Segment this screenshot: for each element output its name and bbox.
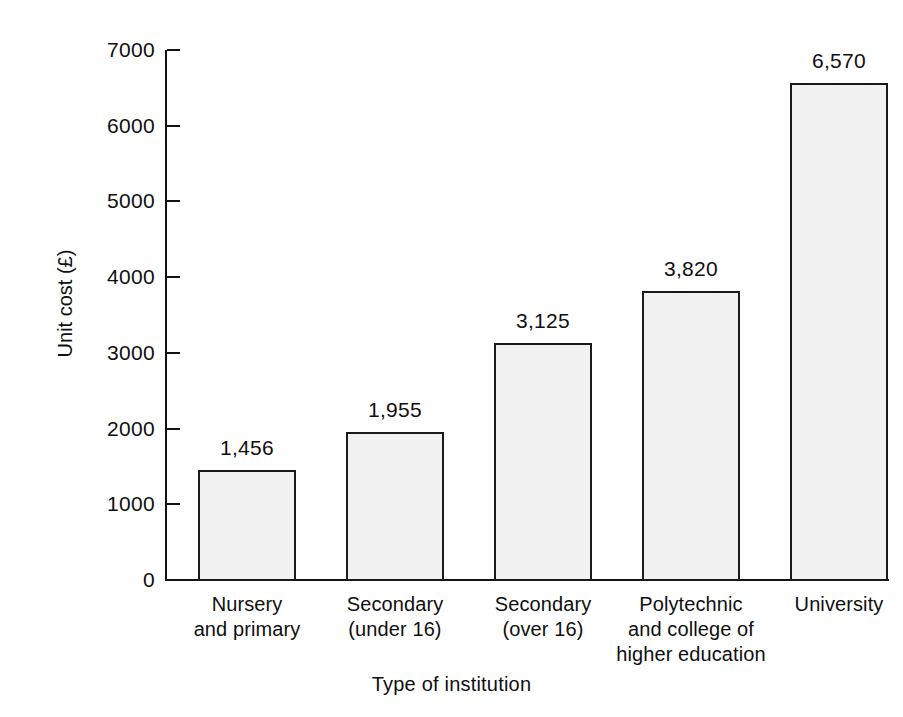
- y-axis-tick-mark: [167, 125, 180, 127]
- y-axis-tick-mark: [167, 200, 180, 202]
- y-axis-title-text: Unit cost (£): [54, 184, 77, 424]
- y-axis-tick-label-text: 1000: [65, 493, 155, 514]
- y-axis-line: [165, 50, 167, 581]
- y-axis-tick-label: 6000: [55, 115, 155, 136]
- bar: [346, 432, 444, 581]
- bar-value-label: 6,570: [764, 50, 903, 71]
- y-axis-tick-label: 7000: [55, 39, 155, 60]
- y-axis-tick-label-text: 2000: [65, 418, 155, 439]
- x-axis-category-label-line: University: [749, 592, 903, 617]
- y-axis-tick-label-text: 5000: [65, 190, 155, 211]
- y-axis-tick-mark: [167, 428, 180, 430]
- x-axis-category-label: University: [749, 592, 903, 617]
- y-axis-tick-label: 5000: [55, 190, 155, 211]
- y-axis-tick-label: 2000: [55, 418, 155, 439]
- y-axis-tick-label-text: 3000: [65, 342, 155, 363]
- y-axis-title: Unit cost (£): [0, 185, 185, 425]
- bar-value-label: 1,456: [172, 437, 322, 458]
- bar: [198, 470, 296, 581]
- bar-value-label: 3,820: [616, 258, 766, 279]
- y-axis-tick-label: 4000: [55, 266, 155, 287]
- bar-value-label: 1,955: [320, 399, 470, 420]
- x-axis-category-label-line: higher education: [601, 642, 781, 667]
- bar: [790, 83, 888, 581]
- bar-value-label: 3,125: [468, 310, 618, 331]
- y-axis-tick-label-text: 0: [65, 569, 155, 590]
- y-axis-tick-label: 0: [55, 569, 155, 590]
- y-axis-tick-mark: [167, 276, 180, 278]
- bar: [642, 291, 740, 581]
- y-axis-tick-mark: [167, 352, 180, 354]
- y-axis-tick-label-text: 6000: [65, 115, 155, 136]
- y-axis-tick-label-text: 7000: [65, 39, 155, 60]
- y-axis-tick-mark: [167, 503, 180, 505]
- y-axis-tick-label: 3000: [55, 342, 155, 363]
- y-axis-tick-mark: [167, 49, 180, 51]
- x-axis-title: Type of institution: [0, 672, 903, 696]
- bar: [494, 343, 592, 581]
- x-axis-category-label-line: and college of: [601, 617, 781, 642]
- y-axis-tick-label-text: 4000: [65, 266, 155, 287]
- bar-chart-figure: Unit cost (£) 01000200030004000500060007…: [0, 0, 903, 717]
- y-axis-tick-label: 1000: [55, 493, 155, 514]
